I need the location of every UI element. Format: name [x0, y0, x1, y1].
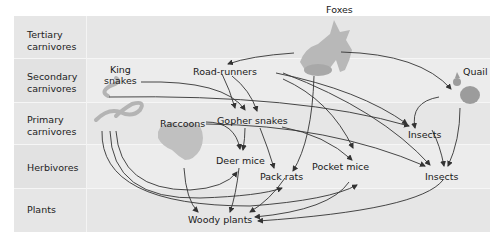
node-pack-rats: Pack rats: [260, 171, 303, 182]
node-pocket-mice: Pocket mice: [312, 161, 369, 172]
node-woody-plants: Woody plants: [188, 214, 252, 225]
node-road-runners: Road-runners: [193, 66, 257, 77]
fox-icon: [300, 20, 352, 76]
node-insects-herbivores: Insects: [425, 171, 459, 182]
node-label-line: King: [104, 64, 137, 75]
node-insects-primary: Insects: [408, 129, 442, 140]
node-king-snakes: King snakes: [104, 64, 137, 86]
node-quail: Quail: [463, 66, 488, 77]
feeding-arrows: [102, 52, 460, 221]
node-foxes: Foxes: [326, 4, 353, 15]
node-label-line: snakes: [104, 75, 137, 86]
node-raccoons: Raccoons: [160, 118, 205, 129]
node-gopher-snakes: Gopher snakes: [217, 115, 288, 126]
node-deer-mice: Deer mice: [216, 155, 265, 166]
